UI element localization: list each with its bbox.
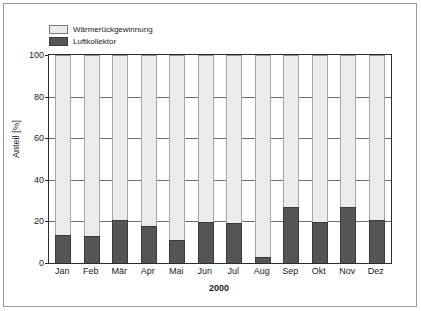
x-tick-label: Mai — [162, 266, 191, 276]
legend-item-luftkollektor: Luftkollektor — [49, 36, 153, 47]
y-tick-label: 0 — [39, 258, 44, 268]
y-tick-mark — [45, 138, 49, 139]
x-tick-label: Feb — [77, 266, 106, 276]
x-tick-label: Jun — [191, 266, 220, 276]
y-axis-title: Anteil [%] — [11, 120, 21, 158]
y-tick-label: 80 — [34, 92, 44, 102]
x-tick-label: Okt — [305, 266, 334, 276]
y-tick-label: 40 — [34, 175, 44, 185]
chart-figure: Wärmerückgewinnung Luftkollektor Anteil … — [0, 0, 421, 311]
plot-area: 020406080100 — [48, 54, 392, 264]
x-axis-labels: JanFebMärAprMaiJunJulAugSepOktNovDez — [48, 266, 390, 276]
chart-legend: Wärmerückgewinnung Luftkollektor — [49, 24, 153, 47]
legend-label-waermerueckgewinnung: Wärmerückgewinnung — [73, 25, 153, 34]
x-tick-label: Sep — [276, 266, 305, 276]
x-tick-label: Dez — [362, 266, 391, 276]
y-tick-mark — [45, 180, 49, 181]
legend-label-luftkollektor: Luftkollektor — [73, 37, 116, 46]
y-tick-mark — [45, 221, 49, 222]
legend-swatch-light-icon — [49, 25, 68, 34]
x-tick-label: Apr — [134, 266, 163, 276]
legend-item-waermerueckgewinnung: Wärmerückgewinnung — [49, 24, 153, 35]
y-tick-label: 100 — [29, 50, 44, 60]
x-tick-label: Jan — [48, 266, 77, 276]
legend-swatch-dark-icon — [49, 37, 68, 46]
x-axis-title: 2000 — [48, 283, 390, 293]
x-tick-label: Mär — [105, 266, 134, 276]
x-tick-label: Jul — [219, 266, 248, 276]
y-tick-mark — [45, 263, 49, 264]
y-tick-label: 20 — [34, 216, 44, 226]
x-tick-label: Aug — [248, 266, 277, 276]
y-tick-mark — [45, 97, 49, 98]
y-tick-label: 60 — [34, 133, 44, 143]
x-tick-label: Nov — [333, 266, 362, 276]
y-tick-mark — [45, 55, 49, 56]
y-axis-ticks: 020406080100 — [49, 55, 391, 263]
